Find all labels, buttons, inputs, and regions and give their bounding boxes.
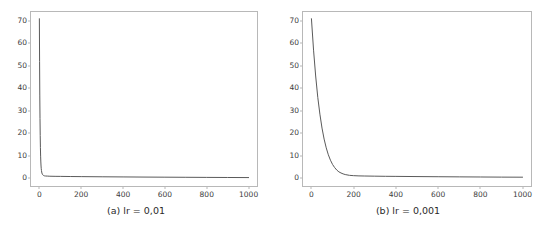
series-line [39,19,248,178]
y-tick-label: 20 [289,129,299,137]
subfigure-panel-b: 01020304050607002004006008001000 (b) lr … [272,0,544,235]
x-tick-mark [248,186,249,189]
y-tick-mark [300,65,303,66]
y-tick-mark [300,155,303,156]
y-tick-mark [300,110,303,111]
x-tick-mark [39,186,40,189]
x-tick-mark [123,186,124,189]
y-tick-label: 60 [17,40,27,48]
figure-container: 01020304050607002004006008001000 (a) lr … [0,0,544,235]
x-tick-label: 600 [431,191,445,199]
y-tick-mark [28,88,31,89]
x-tick-mark [206,186,207,189]
y-tick-label: 10 [289,152,299,160]
y-tick-mark [28,133,31,134]
caption-a: (a) lr = 0,01 [0,206,272,216]
loss-curve-b [303,12,531,186]
y-tick-mark [28,65,31,66]
y-tick-mark [28,43,31,44]
x-tick-label: 0 [309,191,314,199]
x-tick-mark [480,186,481,189]
x-tick-label: 400 [116,191,130,199]
y-tick-label: 0 [294,174,299,182]
y-tick-label: 40 [289,85,299,93]
x-tick-label: 1000 [239,191,258,199]
x-tick-label: 800 [200,191,214,199]
subfigure-panel-a: 01020304050607002004006008001000 (a) lr … [0,0,272,235]
x-tick-mark [438,186,439,189]
x-tick-label: 600 [158,191,172,199]
x-tick-mark [522,186,523,189]
y-tick-label: 50 [17,62,27,70]
x-tick-mark [311,186,312,189]
series-line [311,19,522,177]
y-tick-mark [300,43,303,44]
y-tick-label: 70 [289,17,299,25]
y-tick-mark [28,155,31,156]
y-tick-mark [300,178,303,179]
y-tick-label: 10 [17,152,27,160]
loss-curve-a [31,12,257,186]
x-tick-mark [164,186,165,189]
x-tick-label: 400 [389,191,403,199]
plot-axes-a: 01020304050607002004006008001000 [30,11,258,187]
caption-b: (b) lr = 0,001 [272,206,544,216]
y-tick-label: 60 [289,40,299,48]
x-tick-label: 200 [74,191,88,199]
plot-axes-b: 01020304050607002004006008001000 [302,11,532,187]
y-tick-label: 20 [17,129,27,137]
y-tick-label: 70 [17,17,27,25]
y-tick-label: 30 [17,107,27,115]
x-tick-label: 800 [473,191,487,199]
y-tick-label: 0 [22,174,27,182]
y-tick-label: 40 [17,85,27,93]
y-tick-mark [300,20,303,21]
x-tick-mark [395,186,396,189]
y-tick-mark [28,178,31,179]
y-tick-mark [28,110,31,111]
y-tick-mark [28,20,31,21]
x-tick-mark [81,186,82,189]
y-tick-label: 50 [289,62,299,70]
x-tick-label: 200 [346,191,360,199]
x-tick-label: 1000 [513,191,532,199]
y-tick-mark [300,133,303,134]
x-tick-mark [353,186,354,189]
x-tick-label: 0 [37,191,42,199]
y-tick-mark [300,88,303,89]
y-tick-label: 30 [289,107,299,115]
